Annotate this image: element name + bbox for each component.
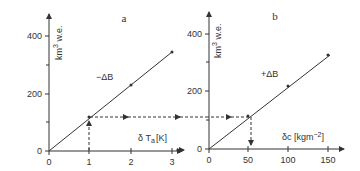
panel-b-xtick-0: 0	[206, 155, 211, 165]
panel-a-x-label: δ Ta[K]	[138, 133, 167, 144]
panel-a-ytick-400: 400	[27, 31, 42, 41]
panel-a-ytick-0: 0	[37, 146, 42, 156]
panel-b-ytick-0: 0	[197, 144, 202, 154]
panel-a-xtick-2: 2	[128, 157, 133, 167]
panel-a-xtick-3: 3	[169, 157, 174, 167]
panel-a-xtick-0: 0	[46, 157, 51, 167]
panel-a-label: a	[122, 12, 127, 24]
panel-b-xtick-100: 100	[280, 155, 295, 165]
panel-a-xtick-1: 1	[86, 157, 91, 167]
panel-b-point-150	[327, 54, 330, 57]
panel-a-point-3	[171, 51, 174, 54]
figure: 0 200 400 0 1 2 3 km3 w.e. a −ΔB δ Ta[K]	[0, 0, 360, 171]
panel-a-ytick-200: 200	[27, 89, 42, 99]
panel-b-xtick-50: 50	[243, 155, 253, 165]
panel-b-series-label: +ΔB	[261, 69, 278, 79]
panel-b-label: b	[272, 10, 278, 22]
panel-b-x-label: δc [kgm−2]	[282, 131, 324, 142]
panel-b: 0 200 400 0 50 100 150 km3 w.e. b +ΔB δc…	[176, 10, 344, 165]
panel-b-xtick-150: 150	[320, 155, 335, 165]
panel-b-point-50	[247, 115, 250, 118]
panel-b-y-label: km3 w.e.	[211, 24, 223, 58]
panel-a-y-label: km3 w.e.	[52, 26, 64, 60]
panel-a-point-2	[130, 84, 133, 87]
panel-b-ytick-400: 400	[187, 29, 202, 39]
panel-b-point-100	[287, 85, 290, 88]
panel-a-series-label: −ΔB	[96, 72, 113, 82]
panel-a: 0 200 400 0 1 2 3 km3 w.e. a −ΔB δ Ta[K]	[27, 12, 182, 167]
panel-b-ytick-200: 200	[187, 86, 202, 96]
